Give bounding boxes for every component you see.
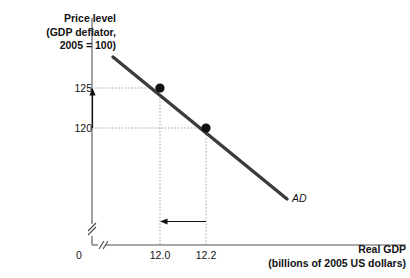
x-axis-title-line-1: Real GDP [358, 243, 406, 255]
y-axis-title-line-3: 2005 = 100) [60, 39, 116, 51]
x-axis-tick-label-12-0: 12.0 [137, 249, 183, 261]
y-axis-title: Price level(GDP deflator,2005 = 100) [6, 12, 116, 53]
data-point-12-0-125 [155, 83, 164, 92]
x-axis-origin-label: 0 [56, 249, 102, 261]
x-axis-title-line-2: (billions of 2005 US dollars) [268, 257, 406, 269]
y-axis-break-icon [88, 223, 96, 235]
data-point-12-2-120 [201, 123, 210, 132]
y-axis-title-line-2: (GDP deflator, [46, 26, 116, 38]
y-axis-title-line-1: Price level [64, 12, 116, 24]
aggregate-demand-chart: Price level(GDP deflator,2005 = 100) 125… [0, 0, 410, 278]
ad-curve-label: AD [292, 192, 307, 204]
y-axis-tick-label-125: 125 [52, 82, 92, 94]
y-axis-tick-label-120: 120 [52, 122, 92, 134]
x-axis-title: Real GDP(billions of 2005 US dollars) [190, 243, 406, 270]
real-gdp-fall-arrow [160, 218, 206, 224]
